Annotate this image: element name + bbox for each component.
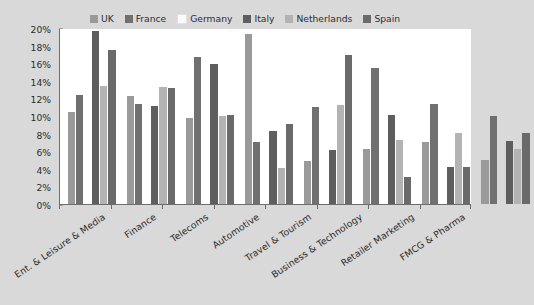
bar-group (417, 29, 476, 204)
x-axis-tick-mark (111, 205, 112, 209)
legend-item-italy[interactable]: Italy (243, 14, 274, 24)
bar-group (180, 29, 239, 204)
bar[interactable] (312, 107, 319, 204)
bar[interactable] (522, 133, 529, 204)
x-axis-tick-mark (470, 205, 471, 209)
bar[interactable] (219, 116, 226, 204)
y-axis-tick-label: 20% (31, 24, 51, 35)
y-axis-tick-label: 8% (36, 129, 51, 140)
bar[interactable] (481, 160, 488, 204)
bar[interactable] (227, 115, 234, 204)
bar[interactable] (422, 142, 429, 204)
bar[interactable] (337, 105, 344, 204)
y-axis-tick-label: 0% (36, 200, 51, 211)
bar[interactable] (108, 50, 115, 204)
x-axis-tick-mark (214, 205, 215, 209)
x-axis-tick-mark (162, 205, 163, 209)
bar[interactable] (245, 34, 252, 204)
legend-swatch-icon (90, 15, 98, 23)
chart-legend: UKFranceGermanyItalyNetherlandsSpain (0, 14, 490, 24)
legend-swatch-icon (285, 15, 293, 23)
x-axis-tick-label: Finance (123, 211, 159, 240)
bar[interactable] (514, 149, 521, 204)
bar[interactable] (345, 55, 352, 204)
legend-label: UK (101, 14, 114, 24)
x-axis: Ent. & Leisure & MediaFinanceTelecomsAut… (59, 205, 471, 305)
x-axis-tick-mark (420, 205, 421, 209)
y-axis-tick-label: 6% (36, 147, 51, 158)
legend-swatch-icon (363, 15, 371, 23)
bar-group (299, 29, 358, 204)
bar-group (62, 29, 121, 204)
bar[interactable] (286, 124, 293, 204)
bar[interactable] (463, 167, 470, 204)
bar[interactable] (135, 104, 142, 204)
legend-label: Netherlands (296, 14, 352, 24)
bar[interactable] (388, 115, 395, 204)
legend-label: Spain (374, 14, 400, 24)
bar[interactable] (100, 86, 107, 204)
bar[interactable] (363, 149, 370, 204)
legend-swatch-icon (177, 14, 187, 24)
bar[interactable] (447, 167, 454, 204)
bar[interactable] (506, 141, 513, 204)
bar[interactable] (92, 31, 99, 204)
bar-group (121, 29, 180, 204)
bar[interactable] (194, 57, 201, 204)
y-axis-tick-label: 16% (31, 59, 51, 70)
y-axis-tick-label: 14% (31, 76, 51, 87)
bar[interactable] (371, 68, 378, 204)
bar[interactable] (210, 64, 217, 204)
plot-area (59, 29, 471, 205)
bar[interactable] (396, 140, 403, 204)
y-axis-tick-label: 2% (36, 182, 51, 193)
bar[interactable] (430, 104, 437, 204)
legend-label: France (136, 14, 167, 24)
legend-label: Italy (254, 14, 274, 24)
bar[interactable] (455, 133, 462, 204)
y-axis-tick-label: 18% (31, 41, 51, 52)
legend-label: Germany (190, 14, 232, 24)
y-axis-tick-label: 10% (31, 112, 51, 123)
bar[interactable] (76, 95, 83, 204)
x-axis-tick-mark (317, 205, 318, 209)
x-axis-tick-label: Automotive (210, 211, 261, 250)
legend-item-germany[interactable]: Germany (177, 14, 232, 24)
bar[interactable] (151, 106, 158, 204)
x-axis-tick-mark (59, 205, 60, 209)
bar[interactable] (304, 161, 311, 204)
x-axis-tick-mark (265, 205, 266, 209)
x-axis-tick-mark (368, 205, 369, 209)
bar[interactable] (404, 177, 411, 204)
bar-group (239, 29, 298, 204)
legend-item-spain[interactable]: Spain (363, 14, 400, 24)
x-axis-tick-label: Telecoms (168, 211, 210, 244)
bar[interactable] (159, 87, 166, 204)
x-axis-tick-label: Ent. & Leisure & Media (12, 211, 107, 280)
bar[interactable] (127, 96, 134, 204)
bar[interactable] (186, 118, 193, 204)
legend-item-netherlands[interactable]: Netherlands (285, 14, 352, 24)
y-axis-tick-label: 12% (31, 94, 51, 105)
bar[interactable] (278, 168, 285, 204)
y-axis: 20%18%16%14%12%10%8%6%4%2%0% (0, 29, 59, 205)
bar-group (358, 29, 417, 204)
bar[interactable] (168, 88, 175, 204)
bar[interactable] (269, 131, 276, 204)
y-axis-tick-label: 4% (36, 164, 51, 175)
legend-item-france[interactable]: France (125, 14, 167, 24)
legend-swatch-icon (243, 15, 251, 23)
bar[interactable] (329, 150, 336, 204)
bar-groups (60, 29, 471, 204)
bar[interactable] (68, 112, 75, 204)
x-axis-tick-label: Business & Technology (269, 211, 364, 280)
bar[interactable] (490, 116, 497, 204)
legend-item-uk[interactable]: UK (90, 14, 114, 24)
legend-swatch-icon (125, 15, 133, 23)
bar-group (476, 29, 534, 204)
bar[interactable] (253, 142, 260, 204)
